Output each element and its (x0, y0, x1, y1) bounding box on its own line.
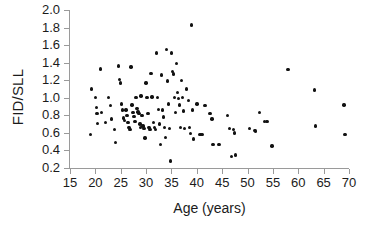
y-tick-mark (64, 150, 69, 151)
y-tick-label: 1.4 (20, 56, 60, 69)
data-point (142, 127, 145, 130)
data-point (178, 103, 181, 106)
data-point (159, 143, 162, 146)
x-tick-mark (197, 169, 198, 174)
y-tick-mark (64, 45, 69, 46)
x-tick-mark (349, 169, 350, 174)
x-tick-mark (95, 169, 96, 174)
y-tick-label: 1.6 (20, 38, 60, 51)
data-point (200, 133, 203, 136)
x-tick-label: 70 (332, 176, 366, 189)
data-point (161, 108, 164, 111)
data-point (132, 115, 135, 118)
data-point (95, 112, 98, 115)
data-point (170, 51, 173, 54)
data-point (90, 87, 93, 90)
data-point (169, 159, 172, 162)
data-point (203, 104, 206, 107)
y-tick-label: 2.0 (20, 3, 60, 16)
x-tick-mark (121, 169, 122, 174)
data-point (144, 81, 147, 84)
data-point (126, 121, 129, 124)
data-point (139, 94, 142, 97)
x-axis-title: Age (years) (70, 200, 349, 216)
data-point (265, 120, 268, 123)
data-point (129, 65, 132, 68)
data-point (313, 88, 316, 91)
y-tick-mark (64, 115, 69, 116)
y-tick-label: 1.0 (20, 91, 60, 104)
plot-area (70, 10, 349, 168)
y-tick-label: 0.4 (20, 143, 60, 156)
data-point (149, 72, 152, 75)
y-tick-label: 0.8 (20, 108, 60, 121)
x-tick-mark (324, 169, 325, 174)
y-tick-mark (64, 10, 69, 11)
y-tick-mark (64, 80, 69, 81)
x-tick-mark (222, 169, 223, 174)
data-point (125, 114, 128, 117)
data-point (160, 73, 163, 76)
data-point (150, 95, 153, 98)
data-point (140, 114, 143, 117)
y-tick-mark (64, 63, 69, 64)
data-point (143, 136, 146, 139)
data-point (195, 102, 198, 105)
y-tick-label: 1.8 (20, 21, 60, 34)
data-point (130, 103, 133, 106)
data-point (152, 121, 155, 124)
data-point (211, 143, 214, 146)
data-point (210, 117, 213, 120)
data-point (128, 128, 131, 131)
x-tick-mark (248, 169, 249, 174)
data-point (342, 103, 345, 106)
data-point (208, 112, 211, 115)
y-tick-mark (64, 133, 69, 134)
y-tick-mark (64, 98, 69, 99)
y-tick-label: 0.2 (20, 161, 60, 174)
data-point (234, 153, 237, 156)
data-point (99, 67, 102, 70)
data-point (124, 108, 127, 111)
y-tick-mark (64, 168, 69, 169)
data-point (314, 124, 317, 127)
data-point (146, 112, 149, 115)
data-point (110, 117, 113, 120)
data-point (172, 72, 175, 75)
x-tick-mark (273, 169, 274, 174)
data-point (226, 114, 229, 117)
data-point (148, 128, 151, 131)
x-tick-mark (171, 169, 172, 174)
data-point (167, 102, 170, 105)
data-point (162, 115, 165, 118)
data-point (157, 108, 160, 111)
data-point (233, 131, 236, 134)
data-point (131, 111, 134, 114)
y-tick-label: 1.2 (20, 73, 60, 86)
data-point (133, 120, 136, 123)
x-axis-line (69, 168, 349, 169)
data-point (182, 109, 185, 112)
data-point (155, 51, 158, 54)
data-point (166, 79, 169, 82)
data-point (154, 128, 157, 131)
data-point (270, 144, 273, 147)
x-tick-mark (70, 169, 71, 174)
data-point (164, 136, 167, 139)
scatter-plot-figure: FID/SLL 0.20.40.60.81.01.21.41.61.82.0 1… (0, 0, 371, 230)
data-point (343, 133, 346, 136)
data-point (96, 122, 99, 125)
y-tick-label: 0.6 (20, 126, 60, 139)
data-point (217, 143, 220, 146)
x-tick-mark (298, 169, 299, 174)
x-tick-mark (146, 169, 147, 174)
y-tick-mark (64, 28, 69, 29)
data-point (158, 122, 161, 125)
